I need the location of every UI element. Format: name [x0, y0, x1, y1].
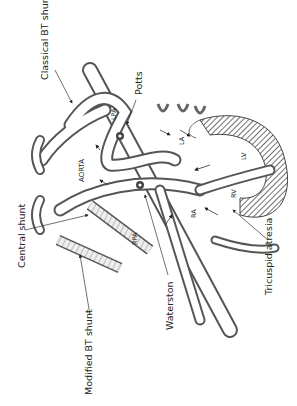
label-potts: Potts [133, 71, 144, 95]
label-modified-bt-shunt: Modified BT shunt [83, 309, 94, 395]
label-rv: RV [230, 189, 238, 198]
aorta [36, 98, 200, 230]
label-rpa: RPA [131, 232, 139, 245]
pulmonary-veins [158, 104, 205, 113]
label-lpa: LPA [110, 108, 118, 120]
label-classical-bt-shunt: Classical BT shunt [39, 0, 50, 80]
label-tricuspid-atresia: Tricuspid atresia [263, 218, 274, 296]
label-waterston: Waterston [164, 281, 175, 330]
shunt-diagram: Classical BT shunt Potts Central shunt M… [0, 0, 297, 406]
central-shunt-graft-inner [90, 205, 150, 250]
label-central-shunt: Central shunt [16, 203, 27, 268]
waterston-anastomosis-icon [136, 181, 144, 189]
label-lv: LV [240, 152, 248, 160]
label-aorta: AORTA [78, 159, 86, 182]
label-la: LA [178, 136, 186, 145]
modified-bt-graft-inner [58, 240, 120, 268]
potts-anastomosis-icon [116, 132, 124, 140]
label-ra: RA [190, 209, 198, 218]
